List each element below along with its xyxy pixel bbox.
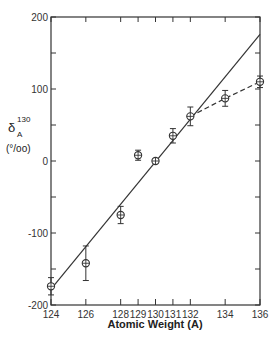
y-tick-label: 200 xyxy=(31,12,48,23)
data-point xyxy=(82,246,89,281)
data-points xyxy=(47,76,263,295)
y-axis-units: (°/oo) xyxy=(6,143,31,154)
x-tick-label: 136 xyxy=(252,309,269,320)
x-tick-label: 124 xyxy=(43,309,60,320)
y-tick-label: 100 xyxy=(31,84,48,95)
y-axis-ticks: -200-1000100200 xyxy=(28,12,260,311)
y-axis-title: δ A 130 (°/oo) xyxy=(6,115,31,154)
data-point xyxy=(169,129,176,143)
y-axis-symbol: δ xyxy=(8,120,15,135)
data-point xyxy=(256,76,263,88)
x-axis-title: Atomic Weight (A) xyxy=(107,318,202,330)
x-tick-label: 134 xyxy=(217,309,234,320)
data-point xyxy=(47,278,54,295)
y-axis-superscript: 130 xyxy=(17,115,31,124)
y-axis-subscript: A xyxy=(17,130,23,139)
y-tick-label: -100 xyxy=(28,228,48,239)
x-tick-label: 126 xyxy=(77,309,94,320)
data-point xyxy=(222,90,229,106)
data-point xyxy=(117,206,124,223)
y-tick-label: 0 xyxy=(42,156,48,167)
data-point xyxy=(134,150,141,160)
data-point xyxy=(152,157,159,164)
chart: -200-1000100200 124126128129130131132134… xyxy=(0,0,271,338)
x-axis-ticks: 124126128129130131132134136 xyxy=(43,17,269,320)
